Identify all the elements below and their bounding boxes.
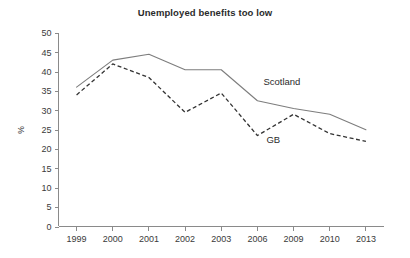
x-tick-label: 1999 [67, 234, 87, 244]
y-tick-label: 30 [41, 106, 51, 116]
y-axis-label: % [16, 126, 26, 134]
x-tick-label: 2010 [320, 234, 340, 244]
x-axis-ticks: 199920002001200220032006200920102013 [67, 227, 376, 244]
data-series-group [77, 54, 366, 141]
x-tick-label: 2002 [175, 234, 195, 244]
x-tick-label: 2001 [139, 234, 159, 244]
line-chart-plot: 05101520253035404550 1999200020012002200… [0, 0, 410, 258]
series-line-scotland [77, 54, 366, 129]
y-tick-label: 45 [41, 48, 51, 58]
y-tick-label: 10 [41, 183, 51, 193]
y-tick-label: 15 [41, 164, 51, 174]
y-tick-label: 25 [41, 125, 51, 135]
y-tick-label: 40 [41, 67, 51, 77]
x-tick-label: 2013 [356, 234, 376, 244]
x-tick-label: 2000 [103, 234, 123, 244]
y-tick-label: 5 [46, 202, 51, 212]
series-label-gb: GB [266, 134, 280, 145]
y-tick-label: 20 [41, 144, 51, 154]
y-tick-label: 50 [41, 28, 51, 38]
chart-container: Unemployed benefits too low 051015202530… [0, 0, 410, 258]
x-tick-label: 2003 [211, 234, 231, 244]
series-label-scotland: Scotland [263, 76, 300, 87]
x-tick-label: 2006 [247, 234, 267, 244]
y-axis-ticks: 05101520253035404550 [41, 28, 58, 232]
series-line-gb [77, 64, 366, 141]
series-annotations: ScotlandGB [263, 76, 300, 145]
x-tick-label: 2009 [284, 234, 304, 244]
y-tick-label: 0 [46, 222, 51, 232]
y-tick-label: 35 [41, 86, 51, 96]
